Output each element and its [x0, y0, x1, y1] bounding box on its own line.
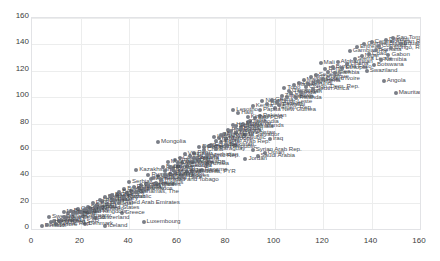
y-tick-label: 120	[3, 64, 29, 73]
data-point[interactable]	[231, 108, 235, 112]
data-point-label: Seychelles	[151, 181, 180, 188]
data-point[interactable]	[142, 220, 146, 224]
data-point[interactable]	[299, 90, 303, 94]
data-point-label: Mongolia	[161, 138, 186, 145]
data-point[interactable]	[270, 98, 274, 102]
data-point[interactable]	[377, 44, 381, 48]
data-point[interactable]	[297, 81, 301, 85]
data-point-label: Cape Verde	[181, 159, 213, 166]
data-point[interactable]	[40, 224, 44, 228]
x-axis: 020406080100120140160	[0, 236, 440, 250]
x-tick-label: 120	[302, 236, 342, 245]
y-tick-label: 0	[3, 222, 29, 231]
data-point[interactable]	[98, 206, 102, 210]
data-point-label: Kiribati	[251, 113, 270, 120]
gridline-vertical	[323, 18, 324, 229]
data-point[interactable]	[156, 140, 160, 144]
data-point[interactable]	[353, 57, 357, 61]
data-point[interactable]	[234, 124, 238, 128]
gridline-vertical	[226, 18, 227, 229]
data-point[interactable]	[282, 86, 286, 90]
data-point-label: Eswatini	[282, 101, 305, 108]
x-tick-label: 20	[60, 236, 100, 245]
y-tick-label: 80	[3, 117, 29, 126]
data-point-label: Solomon Islands	[239, 122, 284, 129]
x-tick-label: 40	[108, 236, 148, 245]
data-point[interactable]	[183, 152, 187, 156]
x-tick-label: 160	[399, 236, 439, 245]
data-point[interactable]	[110, 193, 114, 197]
y-tick-label: 40	[3, 169, 29, 178]
data-point-label: Jordan	[248, 155, 267, 162]
data-point[interactable]	[246, 115, 250, 119]
chart-title	[0, 0, 440, 11]
data-point-label: Gambia	[338, 69, 359, 76]
data-point[interactable]	[176, 161, 180, 165]
data-point[interactable]	[302, 78, 306, 82]
data-point[interactable]	[382, 79, 386, 83]
scatter-chart: 020406080100120140160 FinlandIcelandDenm…	[0, 0, 440, 261]
data-point-label: Brunei	[115, 191, 133, 198]
data-point[interactable]	[45, 223, 49, 227]
data-point-label: Luxembourg	[147, 218, 181, 225]
data-point[interactable]	[321, 77, 325, 81]
x-tick-label: 80	[205, 236, 245, 245]
data-point-label: Angola	[387, 77, 406, 84]
data-point[interactable]	[314, 73, 318, 77]
x-tick-label: 0	[11, 236, 51, 245]
data-point[interactable]	[348, 49, 352, 53]
data-point-label: Micronesia	[224, 131, 253, 138]
data-point[interactable]	[161, 165, 165, 169]
y-tick-label: 100	[3, 90, 29, 99]
data-point-label: Swaziland	[370, 67, 398, 74]
data-point-label: Sao Tome	[396, 34, 421, 41]
y-tick-label: 160	[3, 11, 29, 20]
data-point-label: Mali	[324, 59, 335, 66]
data-point[interactable]	[355, 45, 359, 49]
data-point[interactable]	[166, 160, 170, 164]
data-point[interactable]	[47, 215, 51, 219]
data-point-label: Hong Kong SAR	[54, 218, 99, 225]
data-point[interactable]	[336, 60, 340, 64]
gridline-vertical	[420, 18, 421, 229]
y-axis: 020406080100120140160	[0, 0, 29, 261]
data-point[interactable]	[151, 176, 155, 180]
data-point-label: Suriname	[176, 166, 202, 173]
data-point-label: Gaza	[207, 143, 222, 150]
data-point[interactable]	[319, 61, 323, 65]
x-tick-label: 60	[157, 236, 197, 245]
data-point[interactable]	[243, 157, 247, 161]
y-tick-label: 20	[3, 196, 29, 205]
data-point[interactable]	[365, 69, 369, 73]
gridline-vertical	[81, 18, 82, 229]
data-point[interactable]	[394, 91, 398, 95]
data-point[interactable]	[251, 148, 255, 152]
y-tick-label: 140	[3, 37, 29, 46]
data-point[interactable]	[268, 137, 272, 141]
data-point-label: Equatorial Guinea	[404, 40, 421, 47]
data-point-label: Syrian Arab Rep.	[256, 146, 302, 153]
data-point[interactable]	[370, 40, 374, 44]
x-tick-label: 100	[254, 236, 294, 245]
plot-area: FinlandIcelandDenmarkKorea, Rep.Luxembou…	[31, 17, 421, 230]
data-point-label: United States	[103, 204, 140, 211]
data-point[interactable]	[88, 209, 92, 213]
data-point[interactable]	[171, 168, 175, 172]
data-point[interactable]	[134, 168, 138, 172]
x-tick-label: 140	[351, 236, 391, 245]
data-point-label: Iraq	[273, 135, 283, 142]
data-point[interactable]	[127, 180, 131, 184]
y-tick-label: 60	[3, 143, 29, 152]
data-point-label: Mauritania	[399, 89, 421, 96]
